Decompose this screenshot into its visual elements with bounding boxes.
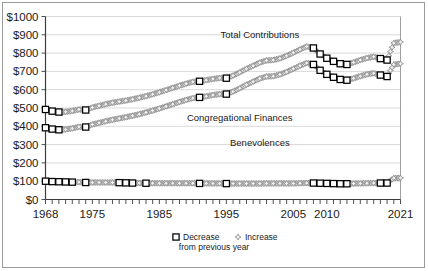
marker-decrease xyxy=(69,179,75,185)
marker-decrease xyxy=(344,61,350,67)
marker-decrease xyxy=(310,61,316,67)
annotation-2: Congregational Finances xyxy=(187,112,293,123)
marker-decrease xyxy=(344,77,350,83)
marker-decrease xyxy=(196,180,202,186)
marker-decrease xyxy=(129,180,135,186)
marker-decrease xyxy=(384,180,390,186)
x-tick-label: 1968 xyxy=(33,208,59,220)
y-tick-label: $400 xyxy=(13,120,39,132)
marker-decrease xyxy=(330,180,336,186)
marker-decrease xyxy=(123,180,129,186)
x-tick-label: 1975 xyxy=(80,208,106,220)
marker-decrease xyxy=(49,178,55,184)
contributions-line-chart: $0$100$200$300$400$500$600$700$800$900$1… xyxy=(0,0,428,271)
marker-decrease xyxy=(324,180,330,186)
y-tick-label: $700 xyxy=(13,65,39,77)
marker-decrease xyxy=(42,106,48,112)
y-tick-label: $0 xyxy=(26,194,39,206)
gridlines xyxy=(46,17,401,182)
marker-decrease xyxy=(317,180,323,186)
marker-decrease xyxy=(116,180,122,186)
marker-decrease xyxy=(83,124,89,130)
marker-decrease xyxy=(324,71,330,77)
x-tick-label: 2010 xyxy=(314,208,340,220)
y-tick-label: $800 xyxy=(13,47,39,59)
marker-decrease xyxy=(143,180,149,186)
x-tick-label: 2021 xyxy=(388,208,414,220)
annotation-1: Total Contributions xyxy=(220,29,299,40)
marker-decrease xyxy=(377,55,383,61)
y-axis-ticks: $0$100$200$300$400$500$600$700$800$900$1… xyxy=(7,11,46,206)
marker-decrease xyxy=(42,178,48,184)
marker-decrease xyxy=(56,179,62,185)
marker-decrease xyxy=(42,125,48,131)
x-axis-ticks: 1968197519851995200520102021 xyxy=(33,200,414,220)
legend-label-increase: Increase xyxy=(245,232,278,242)
marker-decrease xyxy=(384,57,390,63)
marker-decrease xyxy=(317,51,323,57)
marker-decrease xyxy=(324,55,330,61)
x-tick-label: 2005 xyxy=(281,208,307,220)
series-3 xyxy=(42,175,403,187)
marker-decrease xyxy=(384,73,390,79)
y-tick-label: $900 xyxy=(13,29,39,41)
marker-decrease xyxy=(317,67,323,73)
chart-canvas: $0$100$200$300$400$500$600$700$800$900$1… xyxy=(0,0,428,271)
y-tick-label: $300 xyxy=(13,139,39,151)
y-tick-label: $600 xyxy=(13,84,39,96)
marker-decrease xyxy=(196,94,202,100)
marker-decrease xyxy=(49,108,55,114)
marker-decrease xyxy=(310,45,316,51)
marker-decrease xyxy=(83,179,89,185)
legend-label-decrease: Decrease xyxy=(183,232,220,242)
marker-decrease xyxy=(377,72,383,78)
x-tick-label: 1985 xyxy=(147,208,173,220)
marker-decrease xyxy=(330,58,336,64)
marker-decrease xyxy=(337,181,343,187)
marker-decrease xyxy=(223,180,229,186)
marker-decrease xyxy=(330,74,336,80)
chart-screenshot: $0$100$200$300$400$500$600$700$800$900$1… xyxy=(0,0,428,271)
legend-note: from previous year xyxy=(179,242,250,252)
marker-decrease xyxy=(344,181,350,187)
marker-decrease xyxy=(310,180,316,186)
marker-decrease xyxy=(377,180,383,186)
y-tick-label: $100 xyxy=(13,175,39,187)
y-tick-label: $200 xyxy=(13,157,39,169)
marker-decrease xyxy=(56,109,62,115)
marker-decrease xyxy=(62,179,68,185)
y-tick-label: $1000 xyxy=(7,11,39,23)
marker-decrease xyxy=(49,126,55,132)
marker-decrease xyxy=(196,78,202,84)
legend: DecreaseIncreasefrom previous year xyxy=(173,232,278,252)
annotation-3: Benevolences xyxy=(230,137,290,148)
marker-decrease xyxy=(223,75,229,81)
marker-decrease xyxy=(337,76,343,82)
marker-decrease xyxy=(56,127,62,133)
y-tick-label: $500 xyxy=(13,102,39,114)
marker-decrease xyxy=(83,107,89,113)
x-tick-label: 1995 xyxy=(214,208,240,220)
marker-decrease xyxy=(173,234,179,240)
marker-decrease xyxy=(223,91,229,97)
marker-decrease xyxy=(337,61,343,67)
marker-increase xyxy=(235,234,241,240)
